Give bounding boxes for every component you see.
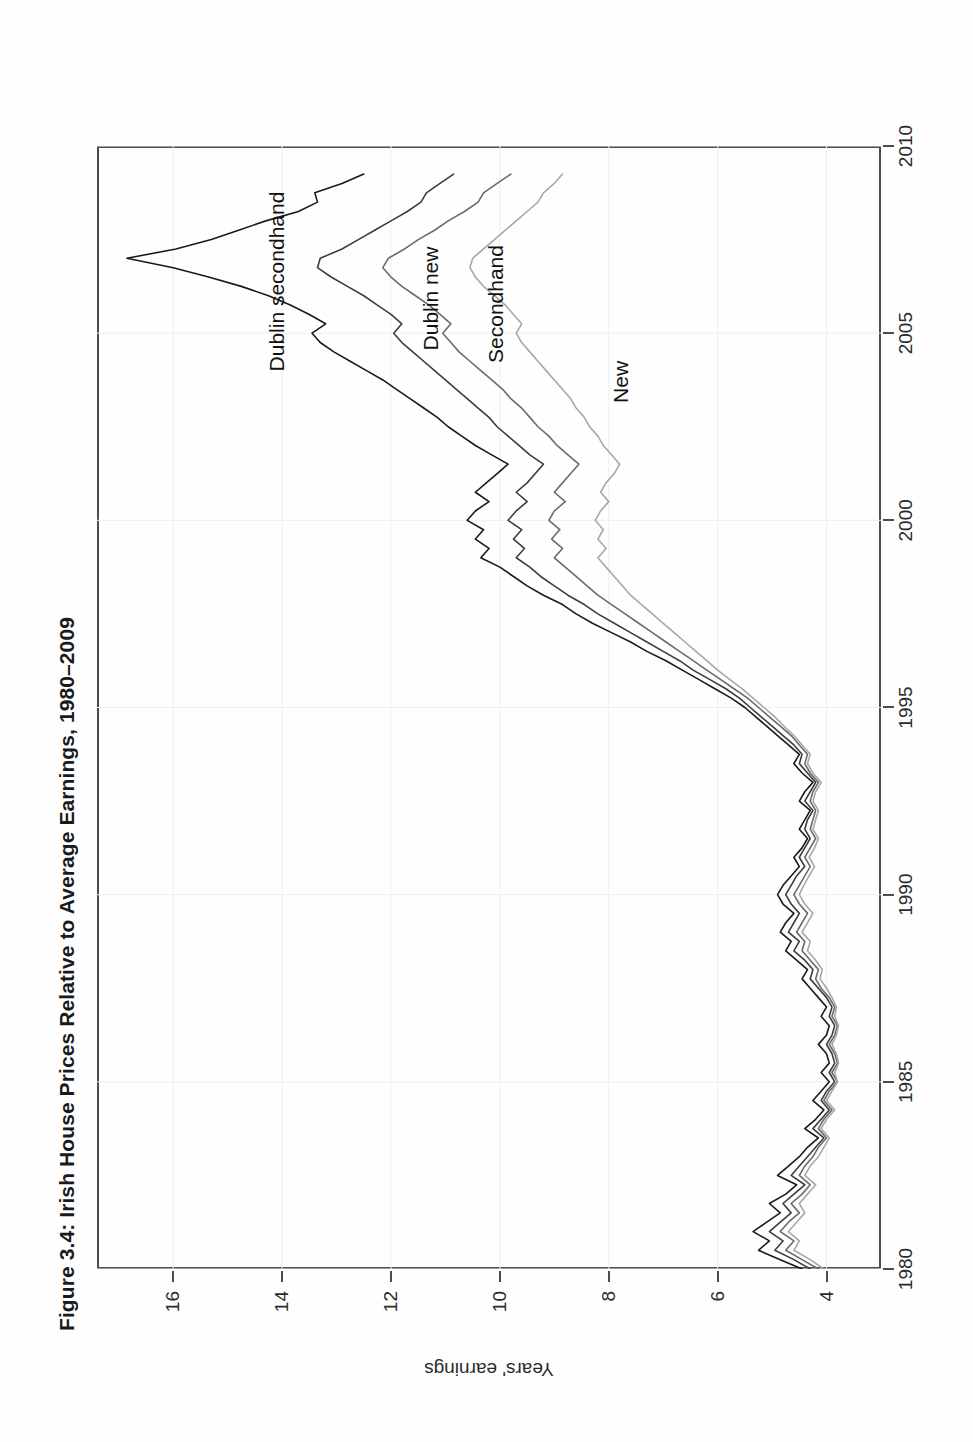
series-annotation-label: New: [608, 361, 632, 403]
x-axis-tick-label: 2010: [895, 125, 917, 167]
y-axis-tick-label: 12: [380, 1291, 402, 1351]
x-axis-tick: [883, 894, 894, 896]
y-axis-tick-label: 8: [597, 1291, 619, 1351]
x-axis-tick-label: 1995: [895, 686, 917, 728]
y-axis-tick: [498, 1271, 500, 1282]
x-axis-tick: [883, 332, 894, 334]
x-axis-tick-label: 1985: [895, 1061, 917, 1103]
series-line: [382, 174, 837, 1269]
series-lines: [126, 174, 838, 1269]
page-title: Figure 3.4: Irish House Prices Relative …: [55, 617, 79, 1331]
page-canvas: Figure 3.4: Irish House Prices Relative …: [0, 0, 973, 1442]
series-line: [126, 174, 828, 1269]
x-axis-tick-label: 1990: [895, 874, 917, 916]
x-axis-tick: [883, 145, 894, 147]
y-axis-tick-label: 14: [271, 1291, 293, 1351]
rotated-figure-wrapper: Figure 3.4: Irish House Prices Relative …: [37, 51, 937, 1391]
y-axis-tick: [281, 1271, 283, 1282]
series-annotation-label: Dublin secondhand: [264, 192, 288, 372]
x-axis-tick: [883, 707, 894, 709]
y-axis-tick: [607, 1271, 609, 1282]
x-axis-tick-label: 2000: [895, 499, 917, 541]
series-line: [317, 174, 834, 1269]
y-axis-tick: [825, 1271, 827, 1282]
series-annotation-label: Dublin new: [418, 247, 442, 351]
y-axis-tick: [172, 1271, 174, 1282]
series-annotation-label: Secondhand: [484, 245, 508, 363]
series-line: [469, 174, 838, 1269]
y-axis-tick-label: 10: [488, 1291, 510, 1351]
y-axis-tick: [716, 1271, 718, 1282]
figure: Figure 3.4: Irish House Prices Relative …: [37, 51, 937, 1391]
y-axis-tick-label: 16: [162, 1291, 184, 1351]
x-axis-tick-label: 2005: [895, 312, 917, 354]
x-axis-tick: [883, 1081, 894, 1083]
y-axis-tick-label: 6: [706, 1291, 728, 1351]
y-axis-tick-label: 4: [815, 1291, 837, 1351]
x-axis-tick-label: 1980: [895, 1248, 917, 1290]
x-axis-tick: [883, 1268, 894, 1270]
y-axis-title: Years' earnings: [424, 1358, 554, 1380]
x-axis-tick: [883, 519, 894, 521]
y-axis-tick: [390, 1271, 392, 1282]
